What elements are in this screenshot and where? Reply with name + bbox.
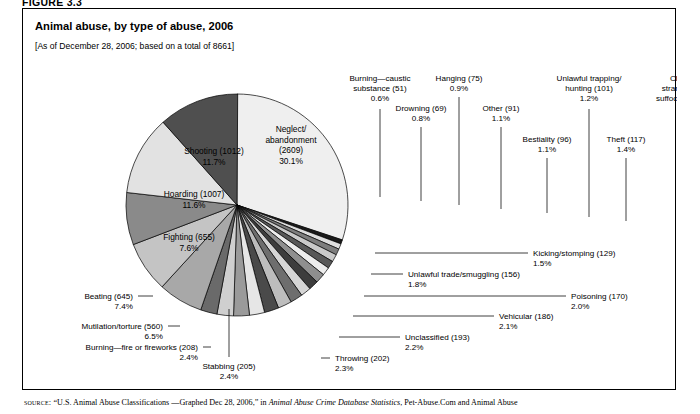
callout-label-throwing: Throwing (202)2.3%	[335, 354, 390, 373]
figure-frame: Animal abuse, by type of abuse, 2006 [As…	[22, 8, 676, 390]
callout-label-burning-caustic-substance: Burning—causticsubstance (51)0.6%	[349, 74, 410, 103]
callout-label-drowning: Drowning (69)0.8%	[396, 104, 447, 123]
callout-label-other: Other (91)1.1%	[483, 104, 520, 123]
source-note: source: “U.S. Animal Abuse Classificatio…	[24, 398, 674, 408]
callout-label-theft: Theft (117)1.4%	[607, 135, 646, 154]
figure-number: FIGURE 3.3	[22, 0, 82, 8]
callout-label-kicking-stomping: Kicking/stomping (129)1.5%	[533, 249, 616, 268]
source-keyword: source:	[24, 397, 51, 407]
callout-label-hanging: Hanging (75)0.9%	[436, 74, 483, 93]
pie-slices	[126, 94, 348, 316]
source-text-after: , Pet-Abuse.Com and Animal Abuse	[400, 398, 517, 407]
callout-label-bestiality: Bestiality (96)1.1%	[522, 135, 571, 154]
callout-label-unclassified: Unclassified (193)2.2%	[405, 333, 470, 352]
callout-label-unlawful-trade-smuggling: Unlawful trade/smuggling (156)1.8%	[408, 270, 520, 289]
callout-label-poisoning: Poisoning (170)2.0%	[571, 292, 628, 311]
source-text-before: “U.S. Animal Abuse Classifications —Grap…	[51, 398, 268, 407]
callout-label-burning-fire-or-fireworks: Burning—fire or fireworks (208)2.4%	[86, 343, 199, 362]
callout-label-beating: Beating (645)7.4%	[84, 292, 133, 311]
callout-label-vehicular: Vehicular (186)2.1%	[499, 312, 554, 331]
pie-chart: Burning—causticsubstance (51)0.6%Drownin…	[23, 9, 677, 391]
callout-label-unlawful-trapping-hunting: Unlawful trapping/hunting (101)1.2%	[557, 74, 623, 103]
callout-label-choking-strangulation-suffocation: Choking/strangulation/suffocation (124)1…	[656, 74, 677, 113]
callout-label-mutilation-torture: Mutilation/torture (560)6.5%	[82, 322, 164, 341]
callout-label-stabbing: Stabbing (205)2.4%	[202, 362, 255, 381]
source-publication-title: Animal Abuse Crime Database Statistics	[269, 398, 401, 407]
